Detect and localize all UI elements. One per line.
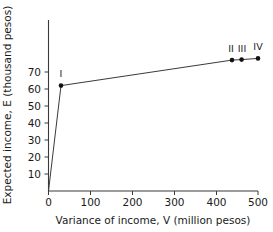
- y-axis-title: Expected income, E (thousand pesos): [1, 6, 13, 205]
- data-point-label-II: II: [228, 43, 234, 54]
- y-tick-label-60: 60: [28, 83, 41, 95]
- y-axis-ticks: [45, 72, 49, 174]
- x-tick-label-500: 500: [248, 196, 268, 208]
- data-point-label-III: III: [238, 43, 246, 54]
- x-axis-title: Variance of income, V (million pesos): [56, 214, 251, 226]
- y-tick-label-30: 30: [28, 134, 41, 146]
- x-axis-tick-labels: 0 100 200 300 400 500: [45, 196, 268, 208]
- series-markers: [59, 56, 261, 88]
- x-tick-label-200: 200: [122, 196, 142, 208]
- chart-container: 10 20 30 40 50 60 70 0 100 200 300 400 5…: [0, 0, 273, 232]
- data-point-I: [59, 83, 64, 88]
- x-axis-ticks: [49, 191, 259, 195]
- y-tick-label-70: 70: [28, 66, 41, 78]
- x-tick-label-100: 100: [80, 196, 100, 208]
- data-point-label-I: I: [60, 68, 63, 79]
- y-tick-label-50: 50: [28, 100, 41, 112]
- y-tick-label-10: 10: [28, 168, 41, 180]
- data-point-II: [230, 58, 235, 63]
- y-tick-label-40: 40: [28, 117, 41, 129]
- data-point-IV: [256, 56, 261, 61]
- chart-plot-area: 10 20 30 40 50 60 70 0 100 200 300 400 5…: [0, 0, 273, 232]
- y-tick-label-20: 20: [28, 151, 41, 163]
- data-point-label-IV: IV: [253, 41, 263, 52]
- y-axis-tick-labels: 10 20 30 40 50 60 70: [28, 66, 41, 180]
- series-line-efficient-frontier: [49, 58, 259, 191]
- x-tick-label-400: 400: [206, 196, 226, 208]
- data-point-III: [239, 57, 244, 62]
- x-tick-label-300: 300: [164, 196, 184, 208]
- x-tick-label-0: 0: [45, 196, 52, 208]
